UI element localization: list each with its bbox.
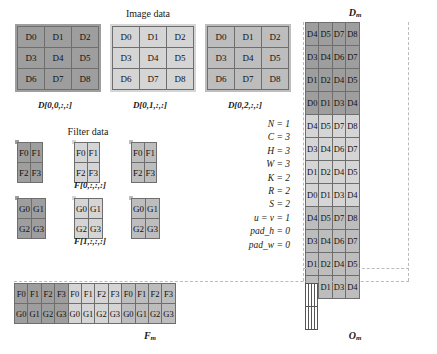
- grid-cell: F0: [15, 284, 28, 304]
- grid-row: G0G1: [132, 199, 160, 219]
- grid-cell: F0: [122, 284, 135, 304]
- grid-row: G0G1: [75, 199, 103, 219]
- grid-cell: D0: [208, 27, 235, 48]
- grid-row: D3D4D5: [208, 48, 289, 69]
- grid-row: D3D4D6D7: [306, 230, 360, 253]
- grid-cell: D5: [72, 48, 99, 69]
- grid-cell: D0: [18, 27, 45, 48]
- grid-cell: D5: [167, 48, 194, 69]
- grid-cell: [315, 284, 318, 307]
- filter-block-0-1-frame: F0F1F2F3: [72, 140, 76, 144]
- grid-cell: D3: [306, 230, 319, 253]
- grid-cell: D7: [140, 69, 167, 90]
- grid-cell: G2: [41, 304, 54, 324]
- grid-cell: D2: [319, 161, 332, 184]
- grid-row: D6D7D8: [18, 69, 99, 90]
- grid-cell: D4: [235, 48, 262, 69]
- grid-cell: F1: [81, 284, 94, 304]
- grid-cell: D7: [332, 207, 345, 230]
- grid-cell: G0: [122, 304, 135, 324]
- grid-row: D3D4D6D7: [306, 46, 360, 69]
- grid-cell: F1: [135, 284, 148, 304]
- grid-row: D0D1D3D4: [306, 92, 360, 115]
- filter-grid-1-2: G0G1G2G3: [131, 198, 160, 239]
- dm-table: D4D5D7D8D3D4D6D7D1D2D4D5D0D1D3D4D4D5D7D8…: [305, 22, 360, 299]
- grid-cell: D6: [18, 69, 45, 90]
- grid-row: G0G1: [18, 199, 46, 219]
- parameter-item: pad_h = 0: [185, 225, 290, 238]
- image-data-grid-2: D0D1D2D3D4D5D6D7D8: [207, 26, 289, 90]
- image-data-caption-1: D[0,1,:,:]: [110, 100, 190, 110]
- grid-cell: D3: [306, 46, 319, 69]
- grid-cell: D5: [346, 69, 359, 92]
- grid-cell: D0: [113, 27, 140, 48]
- grid-cell: D8: [72, 69, 99, 90]
- grid-row: D4D5D7D8: [306, 207, 360, 230]
- filter-table-0-1: F0F1F2F3: [74, 142, 100, 183]
- filter-table-1-1: G0G1G2G3: [74, 198, 103, 239]
- grid-cell: G1: [135, 304, 148, 324]
- grid-cell: D3: [18, 48, 45, 69]
- figure-canvas: Image data Filter data Dm Fm Om D0D1D2D3…: [0, 0, 437, 354]
- grid-cell: D1: [319, 184, 332, 207]
- grid-cell: D3: [332, 92, 345, 115]
- grid-row: D0D1D2: [208, 27, 289, 48]
- grid-row: D3D4D5: [113, 48, 194, 69]
- grid-cell: D3: [306, 138, 319, 161]
- grid-cell: D2: [72, 27, 99, 48]
- grid-cell: D8: [346, 23, 359, 46]
- grid-cell: D4: [306, 23, 319, 46]
- grid-row: G2G3: [18, 219, 46, 239]
- parameter-item: R = 2: [185, 185, 290, 198]
- image-data-caption-0: D[0,0,:,:]: [15, 100, 95, 110]
- grid-cell: D6: [332, 46, 345, 69]
- grid-cell: D2: [319, 253, 332, 276]
- grid-row: [306, 284, 318, 307]
- filter-block-0-0: F0F1F2F3: [15, 140, 19, 144]
- grid-cell: F0: [75, 143, 88, 163]
- grid-row: D1D2D4D5: [306, 253, 360, 276]
- image-data-grid-0: D0D1D2D3D4D5D6D7D8: [17, 26, 99, 90]
- grid-cell: D1: [306, 253, 319, 276]
- om-grid: [305, 283, 318, 330]
- grid-cell: D5: [346, 253, 359, 276]
- grid-cell: D5: [346, 161, 359, 184]
- grid-cell: F3: [30, 163, 43, 183]
- grid-cell: G1: [32, 199, 46, 219]
- grid-cell: G3: [55, 304, 68, 324]
- grid-row: D0D1D2: [113, 27, 194, 48]
- grid-cell: D2: [262, 27, 289, 48]
- grid-cell: D7: [346, 46, 359, 69]
- filter-grid-1-0: G0G1G2G3: [17, 198, 46, 239]
- grid-cell: D3: [332, 184, 345, 207]
- grid-cell: D4: [346, 276, 359, 299]
- grid-cell: D1: [45, 27, 72, 48]
- grid-cell: D7: [332, 23, 345, 46]
- grid-cell: G0: [132, 199, 146, 219]
- grid-cell: D1: [319, 92, 332, 115]
- parameter-item: H = 3: [185, 145, 290, 158]
- grid-row: D1D2D4D5: [306, 69, 360, 92]
- grid-cell: F2: [95, 284, 108, 304]
- grid-cell: D1: [306, 69, 319, 92]
- grid-row: F0F1: [18, 143, 43, 163]
- grid-cell: D4: [306, 207, 319, 230]
- fm-grid: F0F1F2F3F0F1F2F3F0F1F2F3G0G1G2G3G0G1G2G3…: [14, 283, 176, 324]
- grid-row: F0F1: [75, 143, 100, 163]
- filter-block-1-2-frame: G0G1G2G3: [129, 196, 133, 200]
- grid-cell: D4: [346, 184, 359, 207]
- grid-cell: D6: [208, 69, 235, 90]
- grid-row: D4D5D7D8: [306, 115, 360, 138]
- grid-cell: D1: [235, 27, 262, 48]
- grid-cell: F3: [144, 163, 157, 183]
- grid-cell: G0: [18, 199, 32, 219]
- grid-cell: D3: [113, 48, 140, 69]
- filter-block-1-1-frame: G0G1G2G3: [72, 196, 76, 200]
- grid-cell: D3: [208, 48, 235, 69]
- grid-row: D6D7D8: [113, 69, 194, 90]
- grid-cell: G0: [68, 304, 81, 324]
- dm-heading-letter: D: [349, 7, 356, 18]
- filter-grid-0-0: F0F1F2F3: [17, 142, 43, 183]
- grid-cell: D7: [346, 230, 359, 253]
- filter-table-1-0: G0G1G2G3: [17, 198, 46, 239]
